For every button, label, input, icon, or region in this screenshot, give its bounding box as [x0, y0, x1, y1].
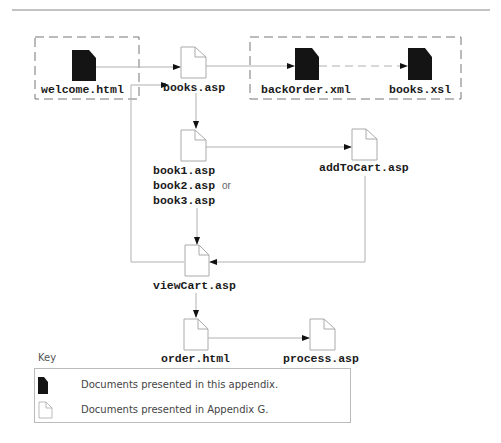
label-book2-asp-text: book2.asp: [153, 179, 215, 192]
process-light-document-icon: [310, 319, 335, 350]
label-addtocart-asp: addToCart.asp: [319, 161, 409, 175]
viewcart-light-document-icon: [185, 245, 209, 276]
label-or: or: [222, 180, 231, 191]
label-books-asp: books.asp: [163, 81, 225, 95]
order-light-document-icon: [184, 319, 208, 350]
label-viewcart-asp: viewCart.asp: [153, 279, 236, 293]
books-asp-light-document-icon: [181, 47, 206, 78]
label-order-html: order.html: [161, 352, 230, 366]
key-item-appendix-g: Documents presented in Appendix G.: [81, 404, 268, 415]
label-book3-asp: book3.asp: [153, 194, 215, 208]
key-item-this-appendix: Documents presented in this appendix.: [81, 379, 278, 390]
label-book1-asp: book1.asp: [153, 164, 215, 178]
addtocart-light-document-icon: [352, 129, 377, 160]
label-book2-asp: book2.asp or: [153, 179, 231, 193]
backorder-dark-document-icon: [295, 48, 319, 80]
label-welcome-html: welcome.html: [41, 83, 124, 97]
key-title: Key: [38, 352, 56, 363]
welcome-dark-document-icon: [72, 50, 96, 81]
connectors: [96, 66, 407, 338]
book-pages-light-document-icon: [181, 130, 206, 161]
label-books-xsl: books.xsl: [389, 83, 451, 97]
books-xsl-dark-document-icon: [408, 48, 432, 80]
label-backorder-xml: backOrder.xml: [261, 83, 351, 97]
label-process-asp: process.asp: [283, 352, 359, 366]
